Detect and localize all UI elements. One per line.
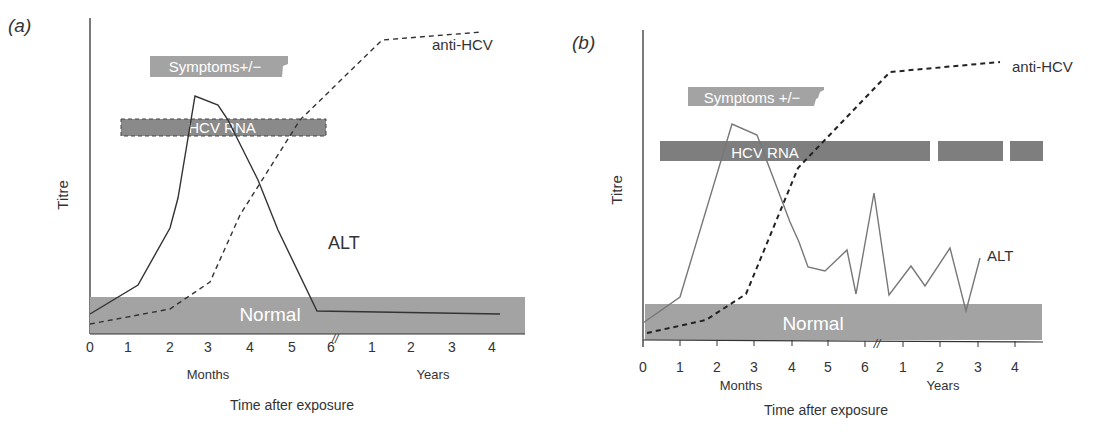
panel-a-alt-label: ALT <box>328 233 360 253</box>
tick-label: 1 <box>676 359 684 375</box>
tick-label: 1 <box>368 339 376 355</box>
panel-b-x-label: Time after exposure <box>764 402 888 418</box>
panel-a-normal-band <box>90 297 525 334</box>
panel-a-symptoms-label: Symptoms+/− <box>169 58 262 75</box>
tick-label: 4 <box>246 339 254 355</box>
panel-b-alt-label: ALT <box>987 247 1013 264</box>
tick-label: 0 <box>639 359 647 375</box>
panel-b-tag: (b) <box>572 32 595 53</box>
panel-a-x-ticks: 0 1 2 3 4 5 6 1 2 3 4 <box>86 339 496 355</box>
tick-label: 3 <box>204 339 212 355</box>
panel-b-hcv-rna-band-segment <box>1010 141 1043 161</box>
panel-b-y-label: Titre <box>608 175 625 204</box>
tick-label: 2 <box>713 359 721 375</box>
tick-label: 3 <box>448 339 456 355</box>
tick-label: 1 <box>124 339 132 355</box>
panel-a-anti-hcv-label: anti-HCV <box>432 36 493 53</box>
panel-a-x-label: Time after exposure <box>230 397 354 413</box>
panel-b: (b) Titre Normal // Symptoms +/− HCV RNA… <box>572 30 1073 418</box>
panel-a-hcv-rna-label: HCV RNA <box>188 119 256 136</box>
panel-b-anti-hcv-label: anti-HCV <box>1012 58 1073 75</box>
tick-label: 2 <box>166 339 174 355</box>
tick-label: 5 <box>824 359 832 375</box>
tick-label: 4 <box>1011 359 1019 375</box>
panel-b-months-label: Months <box>720 378 763 393</box>
panel-b-x-axis <box>643 340 1043 342</box>
tick-label: 3 <box>974 359 982 375</box>
panel-b-symptoms-label: Symptoms +/− <box>704 89 801 106</box>
figure: (a) Titre Normal // Symptoms+/− HCV RNA … <box>0 0 1101 434</box>
tick-label: 4 <box>788 359 796 375</box>
panel-b-x-ticks: 0 1 2 3 4 5 6 1 2 3 4 <box>639 359 1019 375</box>
tick-label: 2 <box>936 359 944 375</box>
panel-a: (a) Titre Normal // Symptoms+/− HCV RNA … <box>8 15 525 413</box>
tick-label: 5 <box>288 339 296 355</box>
tick-label: 6 <box>327 339 335 355</box>
panel-a-y-label: Titre <box>54 180 71 209</box>
tick-label: 0 <box>86 339 94 355</box>
panel-b-years-label: Years <box>927 378 960 393</box>
tick-label: 3 <box>750 359 758 375</box>
tick-label: 2 <box>407 339 415 355</box>
panel-a-months-label: Months <box>187 367 230 382</box>
panel-b-hcv-rna-band-segment <box>938 141 1003 161</box>
panel-a-normal-label: Normal <box>239 304 300 325</box>
panel-b-normal-label: Normal <box>782 313 843 334</box>
tick-label: 6 <box>861 359 869 375</box>
tick-label: 1 <box>899 359 907 375</box>
panel-b-hcv-rna-label: HCV RNA <box>731 144 799 161</box>
panel-a-years-label: Years <box>417 367 450 382</box>
tick-label: 4 <box>488 339 496 355</box>
panel-a-tag: (a) <box>8 15 31 36</box>
panel-a-anti-hcv-line <box>90 32 482 324</box>
